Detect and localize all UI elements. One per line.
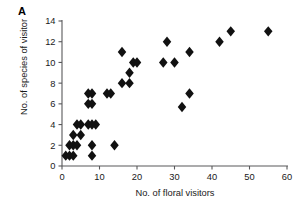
data-point [76,130,85,140]
data-point [226,26,235,36]
data-point [170,57,179,67]
x-tick-label: 20 [132,172,142,182]
y-tick-label: 14 [45,16,55,26]
x-tick-label: 50 [244,172,254,182]
figure-panel-a: A No. of species of visitor No. of flora… [0,0,306,210]
x-tick-label: 60 [282,172,292,182]
x-tick-label: 40 [207,172,217,182]
y-tick-label: 0 [50,161,55,171]
data-point [88,140,97,150]
y-tick-label: 12 [45,37,55,47]
data-point [125,68,134,78]
y-tick-label: 6 [50,99,55,109]
data-point [163,37,172,47]
y-tick-label: 2 [50,141,55,151]
y-tick-label: 4 [50,120,55,130]
scatter-plot: 024681012140102030405060 [0,0,306,210]
data-point [159,57,168,67]
x-tick-label: 30 [169,172,179,182]
data-point [110,140,119,150]
data-point [178,102,187,112]
y-tick-label: 8 [50,79,55,89]
axes [62,20,288,166]
y-tick-label: 10 [45,58,55,68]
data-point [215,37,224,47]
data-point [264,26,273,36]
data-point [88,150,97,160]
data-point [185,88,194,98]
x-tick-label: 0 [59,172,64,182]
data-point [118,78,127,88]
data-points [61,26,272,161]
data-point [118,47,127,57]
data-point [125,78,134,88]
data-point [185,47,194,57]
data-point [69,130,78,140]
x-tick-label: 10 [94,172,104,182]
